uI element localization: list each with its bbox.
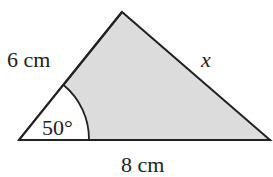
- triangle-diagram: 6 cm x 8 cm 50°: [0, 0, 273, 177]
- angle-label: 50°: [42, 115, 73, 140]
- base-label: 8 cm: [121, 152, 164, 177]
- right-side-label: x: [200, 47, 211, 72]
- left-side-label: 6 cm: [7, 47, 50, 72]
